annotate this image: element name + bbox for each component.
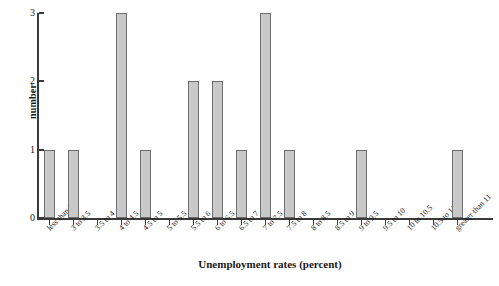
bar — [356, 150, 367, 218]
bar — [68, 150, 79, 218]
bar — [452, 150, 463, 218]
bar — [260, 13, 271, 218]
bars-container — [0, 0, 499, 286]
bar — [284, 150, 295, 218]
bar — [140, 150, 151, 218]
bar — [236, 150, 247, 218]
x-axis-title: Unemployment rates (percent) — [120, 258, 420, 270]
histogram-chart: number 0123 less than 33 to 3.53.5 to 44… — [0, 0, 499, 286]
bar — [188, 81, 199, 218]
bar — [44, 150, 55, 218]
bar — [116, 13, 127, 218]
bar — [212, 81, 223, 218]
